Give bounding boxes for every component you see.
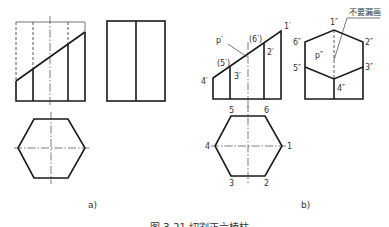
label-4: 4 — [205, 142, 210, 151]
label-5-prime: (5′) — [217, 59, 230, 68]
subfigure-label-b: b) — [301, 200, 310, 210]
label-6: 6 — [264, 106, 269, 115]
side-view-b: 不要漏画 p″ 1″ 2″ 3″ 4″ 5″ 6″ — [293, 7, 381, 99]
top-view-a — [14, 112, 90, 184]
label-3: 3 — [229, 179, 234, 188]
label-4-prime: 4′ — [201, 77, 208, 86]
label-p-prime: p′ — [216, 36, 223, 45]
front-view-a — [16, 16, 85, 107]
label-3-double-prime: 3″ — [365, 63, 373, 72]
label-1-prime: 1′ — [284, 22, 291, 31]
label-p-double-prime: p″ — [315, 51, 323, 60]
label-5-double-prime: 5″ — [293, 64, 301, 73]
label-2-double-prime: 2″ — [365, 38, 373, 47]
label-6-prime: (6′) — [249, 35, 262, 44]
label-1: 1 — [287, 142, 292, 151]
subfigure-a: a) — [14, 16, 165, 210]
hexagon — [18, 119, 85, 178]
label-4-double-prime: 4″ — [337, 84, 345, 93]
p-leader-line — [228, 44, 247, 57]
label-2-prime: 2′ — [267, 48, 274, 57]
annotation-text: 不要漏画 — [349, 7, 381, 17]
label-6-double-prime: 6″ — [293, 38, 301, 47]
subfigure-label-a: a) — [88, 200, 97, 210]
label-1-double-prime: 1″ — [330, 18, 338, 27]
subfigure-b: p′ 1′ 2′ 3′ 4′ (5′) (6′) 不要漏画 p″ 1″ 2″ 3… — [201, 7, 381, 210]
label-5: 5 — [229, 106, 234, 115]
figure-caption: 图 3-21 切割正六棱柱 — [150, 221, 249, 227]
side-view-a — [107, 21, 165, 101]
front-outline — [16, 32, 85, 101]
front-view-b: p′ 1′ 2′ 3′ 4′ (5′) (6′) — [201, 22, 291, 108]
technical-drawing: a) p′ 1′ 2′ 3′ 4′ (5′) (6′) 不要漏画 — [0, 0, 389, 227]
cut-plane-line — [16, 32, 85, 81]
label-2: 2 — [264, 179, 269, 188]
label-3-prime: 3′ — [234, 72, 241, 81]
top-view-b: 1 2 3 4 5 6 — [205, 104, 292, 188]
